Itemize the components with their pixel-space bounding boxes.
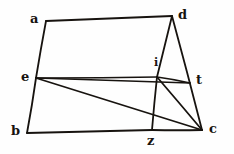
segment-b-z: [27, 130, 152, 133]
vertex-label-a: a: [30, 12, 38, 25]
vertex-label-t: t: [196, 73, 202, 86]
vertex-label-i: i: [154, 57, 158, 68]
segment-e-c: [36, 78, 202, 130]
vertex-label-c: c: [209, 122, 217, 135]
vertex-label-e: e: [21, 70, 29, 83]
vertex-label-z: z: [147, 134, 154, 147]
vertex-label-b: b: [11, 124, 20, 137]
geometry-figure: adeitbzc: [0, 0, 234, 154]
segment-i-z: [152, 77, 157, 130]
segment-a-e: [36, 21, 46, 78]
segment-e-b: [27, 78, 36, 133]
vertex-label-d: d: [178, 8, 187, 21]
segments-group: [27, 16, 202, 133]
segment-d-i: [157, 16, 172, 77]
segment-a-d: [46, 16, 172, 21]
